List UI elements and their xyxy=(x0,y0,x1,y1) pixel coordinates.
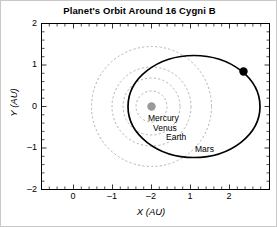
ytick-label-1: 1 xyxy=(15,59,37,69)
annotation-mars: Mars xyxy=(195,144,214,154)
xtick-label-0: 0 xyxy=(58,191,88,201)
xtick-label-neg2: –2 xyxy=(136,191,166,201)
xtick-label-1: 1 xyxy=(175,191,205,201)
xtick-label-neg1: –1 xyxy=(97,191,127,201)
ytick-label-neg2: –2 xyxy=(15,184,37,194)
ytick-label-2: 2 xyxy=(15,18,37,28)
x-axis-label: X (AU) xyxy=(111,206,191,217)
star-marker xyxy=(147,102,155,110)
xtick-label-2: 2 xyxy=(214,191,244,201)
annotation-earth: Earth xyxy=(166,132,186,142)
ytick-label-neg1: –1 xyxy=(15,142,37,152)
y-axis-label: Y (AU) xyxy=(8,73,19,133)
chart-figure: Planet's Orbit Around 16 Cygni B xyxy=(0,0,277,227)
annotation-mercury: Mercury xyxy=(148,113,179,123)
planet-marker xyxy=(239,67,247,75)
